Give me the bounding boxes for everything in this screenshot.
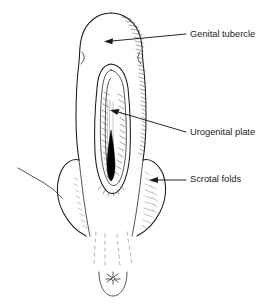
anatomical-diagram: Genital tubercle, urogenital plate and s… <box>0 0 277 306</box>
label-scrotal-folds: Scrotal folds <box>190 174 242 184</box>
label-urogenital-plate: Urogenital plate <box>190 127 255 137</box>
label-genital-tubercle: Genital tubercle <box>190 29 255 39</box>
figure-canvas: Genital tubercle, urogenital plate and s… <box>0 0 277 306</box>
